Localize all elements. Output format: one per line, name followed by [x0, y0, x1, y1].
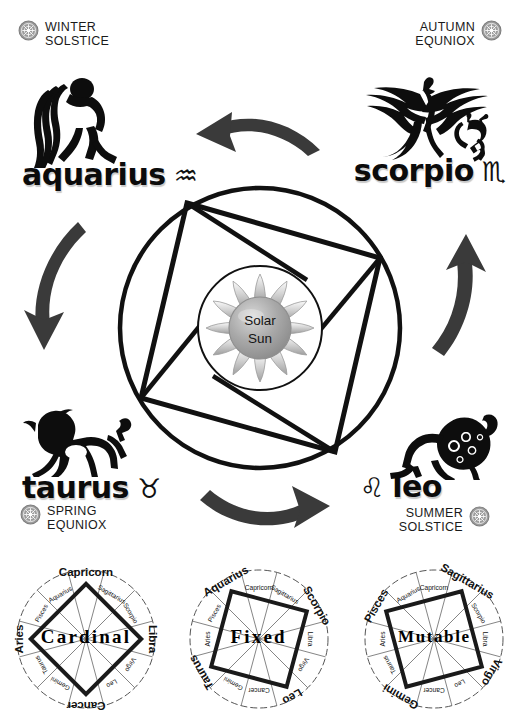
sector-label-virgo: Virgo — [123, 656, 138, 674]
modality-title-cardinal: Cardinal — [41, 626, 131, 648]
arrow-bottom-icon — [200, 486, 330, 528]
sector-label-taurus: Taurus — [381, 654, 397, 675]
sector-label-pisces: Pisces — [362, 587, 391, 625]
modality-title-mutable: Mutable — [398, 627, 471, 647]
sector-label-libra: Libra — [483, 632, 490, 647]
sector-label-leo: Leo — [453, 678, 466, 690]
sector-label-libra: Libra — [307, 632, 314, 647]
sector-label-scorpio: Scorpio — [470, 602, 488, 626]
sector-label-cancer: Cancer — [423, 687, 445, 694]
sector-label-capricorn: Capricorn — [244, 584, 273, 592]
modality-wheel-row: CapricornAquariusPiscesAriesTaurusGemini… — [0, 548, 518, 726]
diagram-canvas: WINTERSOLSTICE AUTUMNEQUNIOX — [0, 0, 518, 726]
sector-label-pisces: Pisces — [206, 602, 222, 623]
solar-sun-label-line2: Sun — [248, 331, 272, 346]
arrow-top-icon — [196, 112, 320, 156]
sector-label-gemini: Gemini — [222, 675, 244, 692]
sector-label-capricorn: Capricorn — [59, 566, 113, 578]
modality-wheel-cardinal: CapricornAquariusPiscesAriesTaurusGemini… — [0, 548, 173, 726]
sector-label-cancer: Cancer — [247, 687, 269, 694]
sector-label-virgo: Virgo — [480, 657, 505, 688]
sector-label-virgo: Virgo — [296, 656, 311, 674]
main-zodiac-wheel: Solar Sun — [95, 180, 425, 484]
sector-label-libra: Libra — [147, 625, 159, 654]
arrow-right-icon — [432, 234, 486, 356]
modality-title-fixed: Fixed — [230, 626, 286, 648]
sector-label-cancer: Cancer — [66, 700, 106, 712]
sector-label-aries: Aries — [13, 625, 25, 654]
arrow-left-icon — [24, 222, 86, 350]
sector-label-aries: Aries — [203, 631, 210, 647]
sector-label-capricorn: Capricorn — [420, 584, 449, 592]
solar-sun-label-line1: Solar — [244, 313, 276, 328]
main-wheel-svg: Solar Sun — [95, 180, 425, 480]
modality-wheel-mutable: CapricornAquariusPiscesAriesTaurusGemini… — [345, 548, 518, 726]
sector-label-aries: Aries — [379, 631, 386, 647]
sun-disk — [229, 297, 291, 359]
modality-wheel-fixed: CapricornAquariusPiscesAriesTaurusGemini… — [173, 548, 346, 726]
sector-label-sagittarius: Sagittarius — [96, 583, 128, 606]
sector-label-leo: Leo — [105, 678, 118, 690]
sector-label-leo: Leo — [280, 687, 304, 708]
